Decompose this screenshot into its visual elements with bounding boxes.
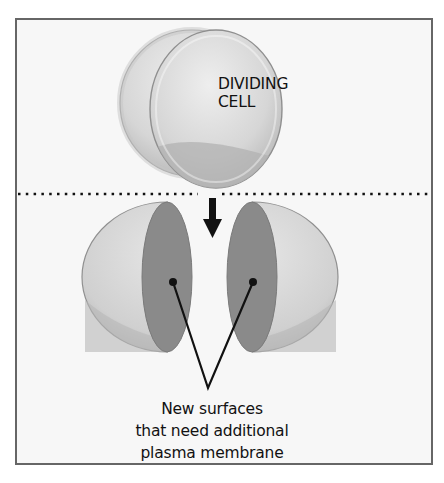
dividing-cell-label-line2: CELL — [218, 93, 288, 111]
caption-line2: that need additional — [96, 420, 328, 442]
right-cut-surface — [227, 202, 277, 352]
caption-line3: plasma membrane — [96, 442, 328, 464]
down-arrow-icon — [203, 198, 222, 238]
left-cut-surface — [142, 202, 192, 352]
dividing-cell-label: DIVIDING CELL — [218, 75, 288, 111]
new-surfaces-caption: New surfaces that need additional plasma… — [96, 398, 328, 464]
dividing-cell-icon — [120, 30, 282, 200]
caption-line1: New surfaces — [96, 398, 328, 420]
dividing-cell-label-line1: DIVIDING — [218, 75, 288, 93]
